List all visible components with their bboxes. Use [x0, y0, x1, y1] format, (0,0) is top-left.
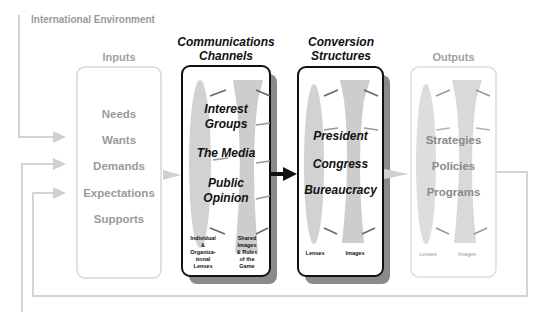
conversion-to-outputs-arrow-icon — [384, 169, 409, 179]
conversion-lens-label: Lenses — [300, 250, 330, 257]
channels-lens-label: Individual & Organiza- tional Lenses — [186, 235, 220, 270]
conversion-title: Conversion Structures — [286, 35, 396, 63]
output-strategies: Strategies — [411, 134, 496, 146]
lens-label-line: tional — [186, 256, 220, 263]
wants-arrow-icon — [53, 131, 66, 143]
input-needs: Needs — [77, 108, 161, 120]
inputs-to-channels-arrow-icon — [163, 170, 181, 180]
image-label-line: Shared — [230, 235, 264, 242]
input-supports: Supports — [77, 213, 161, 225]
conversion-bureaucracy: Bureaucracy — [298, 183, 383, 198]
conversion-title-line1: Conversion — [286, 35, 396, 49]
conversion-title-line2: Structures — [286, 49, 396, 63]
expectations-arrow-icon — [53, 187, 66, 199]
output-programs: Programs — [411, 186, 496, 198]
international-environment-label: International Environment — [31, 14, 155, 25]
channel-the-media: The Media — [182, 146, 270, 161]
output-policies: Policies — [411, 160, 496, 172]
image-label-line: & Rules — [230, 249, 264, 256]
conversion-congress: Congress — [298, 157, 383, 172]
input-expectations: Expectations — [77, 187, 161, 199]
channels-title-line2: Channels — [170, 49, 282, 63]
lens-label-line: Individual — [186, 235, 220, 242]
image-label-line: Images — [230, 242, 264, 249]
channel-interest-groups-line1: Interest — [182, 102, 270, 117]
lens-label-line: Organiza- — [186, 249, 220, 256]
channels-title-line1: Communications — [170, 35, 282, 49]
demands-arrow-icon — [53, 158, 66, 170]
channel-public-opinion-line1: Public — [182, 176, 270, 191]
conversion-image-label: Images — [340, 250, 370, 257]
outputs-lens-label: Lenses — [413, 251, 443, 257]
outputs-image-label: Images — [452, 251, 482, 257]
channel-interest-groups: Interest Groups — [182, 102, 270, 132]
image-label-line: of the — [230, 256, 264, 263]
channel-public-opinion-line2: Opinion — [182, 191, 270, 206]
lens-label-line: Lenses — [186, 263, 220, 270]
outputs-title: Outputs — [411, 51, 496, 63]
input-demands: Demands — [77, 160, 161, 172]
channels-image-label: Shared Images & Rules of the Game — [230, 235, 264, 270]
lens-label-line: & — [186, 242, 220, 249]
channel-interest-groups-line2: Groups — [182, 117, 270, 132]
channels-title: Communications Channels — [170, 35, 282, 63]
environment-flow-line — [19, 15, 58, 137]
conversion-president: President — [298, 129, 383, 144]
channel-public-opinion: Public Opinion — [182, 176, 270, 206]
inputs-box — [77, 67, 161, 278]
input-wants: Wants — [77, 134, 161, 146]
feedback-loop-outer — [22, 164, 58, 312]
image-label-line: Game — [230, 263, 264, 270]
inputs-title: Inputs — [77, 51, 161, 63]
